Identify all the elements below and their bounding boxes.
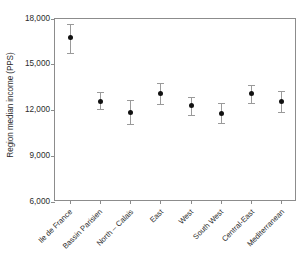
data-point-marker[interactable] — [98, 99, 103, 104]
y-axis-tick — [51, 110, 55, 111]
data-point-marker[interactable] — [158, 91, 163, 96]
x-axis-tick — [130, 200, 131, 204]
y-axis-tick-label: 6,000 — [12, 197, 50, 206]
x-axis-tick — [281, 200, 282, 204]
error-bar-cap-lower — [278, 112, 285, 113]
error-bar-cap-upper — [278, 91, 285, 92]
data-point-marker[interactable] — [279, 99, 284, 104]
y-axis-tick-label: 15,000 — [12, 59, 50, 68]
error-bar-cap-upper — [157, 83, 164, 84]
data-point-marker[interactable] — [68, 35, 73, 40]
error-bar-cap-upper — [97, 92, 104, 93]
y-axis-tick-label: 18,000 — [12, 14, 50, 23]
y-axis-tick-label: 9,000 — [12, 151, 50, 160]
x-axis-tick — [191, 200, 192, 204]
chart-figure: Region median income (PPS) 6,0009,00012,… — [0, 0, 308, 254]
error-bar-cap-lower — [157, 104, 164, 105]
y-axis-tick — [51, 64, 55, 65]
error-bar-cap-lower — [248, 103, 255, 104]
x-axis-tick — [251, 200, 252, 204]
error-bar-cap-upper — [67, 24, 74, 25]
error-bar-cap-lower — [67, 53, 74, 54]
data-point-marker[interactable] — [189, 103, 194, 108]
y-axis-tick — [51, 19, 55, 20]
error-bar-cap-upper — [248, 85, 255, 86]
error-bar-cap-lower — [218, 123, 225, 124]
error-bar-cap-lower — [127, 124, 134, 125]
x-axis-tick — [221, 200, 222, 204]
y-axis-tick-labels: 6,0009,00012,00015,00018,000 — [12, 0, 50, 254]
error-bar-cap-upper — [218, 103, 225, 104]
y-axis-tick — [51, 156, 55, 157]
error-bar-cap-lower — [188, 115, 195, 116]
error-bar-cap-lower — [97, 109, 104, 110]
plot-area — [54, 18, 296, 201]
error-bar-cap-upper — [127, 100, 134, 101]
data-point-marker[interactable] — [219, 111, 224, 116]
y-axis-tick — [51, 202, 55, 203]
data-point-marker[interactable] — [128, 110, 133, 115]
error-bar-cap-upper — [188, 97, 195, 98]
x-axis-tick — [70, 200, 71, 204]
data-point-marker[interactable] — [249, 91, 254, 96]
x-axis-tick — [160, 200, 161, 204]
y-axis-tick-label: 12,000 — [12, 105, 50, 114]
x-axis-tick — [100, 200, 101, 204]
